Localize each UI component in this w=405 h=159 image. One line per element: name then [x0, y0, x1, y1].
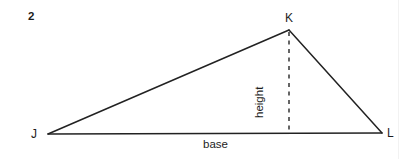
vertex-label-l: L	[387, 127, 394, 139]
page-edge-artifact	[398, 0, 399, 159]
figure-canvas: 2 K J L base height	[0, 0, 405, 159]
height-label: height	[254, 60, 266, 118]
triangle-side-kl	[289, 30, 382, 133]
triangle-diagram-svg	[0, 0, 405, 159]
triangle-side-jl-base	[48, 133, 382, 134]
base-label: base	[203, 139, 228, 151]
triangle-side-jk	[48, 30, 289, 134]
vertex-label-j: J	[31, 128, 37, 140]
problem-number: 2	[28, 11, 35, 23]
vertex-label-k: K	[285, 12, 293, 24]
